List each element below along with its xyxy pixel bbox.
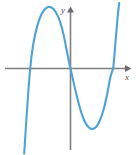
graph-canvas: y x xyxy=(0,0,136,155)
y-axis-arrow-icon xyxy=(67,7,74,13)
graph-figure: y x xyxy=(0,0,136,155)
y-axis-label: y xyxy=(60,5,65,15)
cubic-curve xyxy=(24,3,119,154)
x-axis-label: x xyxy=(124,72,129,82)
